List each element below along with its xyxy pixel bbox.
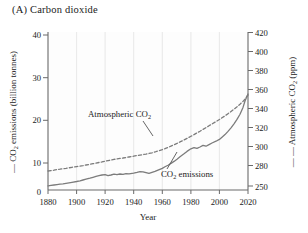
x-tick-2000: 2000 (211, 197, 228, 207)
x-tick-1940: 1940 (125, 197, 142, 207)
carbon-dioxide-chart: 40 30 20 10 0 420 400 380 360 340 320 3 (0, 0, 308, 233)
left-tick-40: 40 (32, 30, 41, 40)
left-tick-labels: 40 30 20 10 0 (32, 30, 41, 197)
svg-text:— — Atmospheric CO2 (ppm): — — Atmospheric CO2 (ppm) (287, 57, 298, 169)
x-axis-label: Year (140, 212, 157, 222)
x-tick-labels: 1880 1900 1920 1940 1960 1980 2000 2020 (39, 197, 256, 207)
left-axis-ticks (43, 35, 48, 163)
right-tick-labels: 420 400 380 360 340 320 300 280 250 (255, 28, 268, 192)
x-tick-1900: 1900 (68, 197, 85, 207)
left-tick-20: 20 (32, 115, 41, 125)
left-tick-30: 30 (32, 73, 41, 83)
left-axis-label: — CO2 emissions (billion tonnes) (8, 51, 19, 174)
annotation-co2-emissions: CO2 emissions (161, 169, 214, 180)
figure-panel: (A) Carbon dioxide 40 (0, 0, 308, 233)
right-tick-360: 360 (255, 85, 268, 95)
x-tick-1880: 1880 (39, 197, 56, 207)
right-tick-300: 300 (255, 142, 268, 152)
right-tick-280: 280 (255, 161, 268, 171)
svg-text:— CO2 emissions (billion tonne: — CO2 emissions (billion tonnes) (8, 51, 19, 174)
left-tick-0: 0 (37, 187, 41, 197)
right-axis-ticks (248, 33, 253, 187)
right-tick-380: 380 (255, 66, 268, 76)
x-tick-1920: 1920 (97, 197, 114, 207)
x-axis-ticks (48, 190, 248, 194)
x-tick-2020: 2020 (239, 197, 256, 207)
right-tick-420: 420 (255, 28, 268, 38)
x-tick-1960: 1960 (154, 197, 171, 207)
right-tick-250: 250 (255, 182, 268, 192)
right-tick-400: 400 (255, 47, 268, 57)
right-axis-label: — — Atmospheric CO2 (ppm) (287, 57, 298, 169)
right-tick-320: 320 (255, 123, 268, 133)
x-tick-1980: 1980 (182, 197, 199, 207)
right-tick-340: 340 (255, 104, 268, 114)
left-tick-10: 10 (32, 158, 41, 168)
annotation-atmospheric-co2: Atmospheric CO2 (88, 109, 151, 120)
